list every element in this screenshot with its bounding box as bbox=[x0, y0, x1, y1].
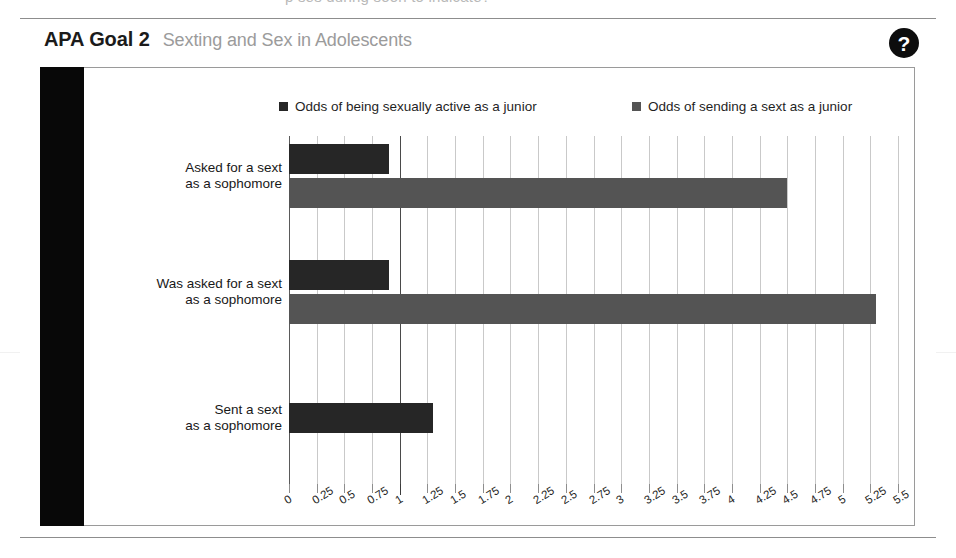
x-tick-mark-20 bbox=[843, 484, 844, 493]
bar-series-0-category-0 bbox=[289, 144, 389, 174]
bar-series-1-category-0 bbox=[289, 178, 787, 208]
x-tick-label-21: 5.25 bbox=[863, 484, 888, 506]
x-tick-label-12: 3 bbox=[614, 493, 626, 507]
page-title: APA Goal 2 Sexting and Sex in Adolescent… bbox=[44, 28, 412, 51]
chart-panel: Odds of being sexually active as a junio… bbox=[84, 67, 915, 526]
x-tick-label-17: 4.25 bbox=[753, 484, 778, 506]
y-axis-label-0: Asked for a sextas a sophomore bbox=[102, 160, 282, 192]
x-tick-mark-0 bbox=[289, 484, 290, 493]
x-axis-ticks: 00.250.50.7511.251.51.7522.252.52.7533.2… bbox=[289, 484, 929, 534]
legend-swatch-0 bbox=[279, 102, 288, 111]
title-main: APA Goal 2 bbox=[44, 28, 150, 51]
bar-series-0-category-2 bbox=[289, 403, 433, 433]
x-tick-label-4: 1 bbox=[393, 493, 405, 507]
legend-swatch-1 bbox=[632, 102, 641, 111]
x-tick-label-22: 5.5 bbox=[891, 488, 911, 507]
x-tick-label-10: 2.5 bbox=[559, 488, 579, 507]
y-axis-label-line: Sent a sext bbox=[102, 402, 282, 418]
y-axis-label-line: as a sophomore bbox=[102, 292, 282, 308]
legend-item-0: Odds of being sexually active as a junio… bbox=[279, 99, 537, 114]
gridline-5.5 bbox=[898, 136, 899, 484]
x-tick-label-14: 3.5 bbox=[670, 488, 690, 507]
y-axis-labels: Asked for a sextas a sophomoreWas asked … bbox=[102, 136, 282, 484]
x-tick-label-7: 1.75 bbox=[476, 484, 501, 506]
bar-series-0-category-1 bbox=[289, 260, 389, 290]
x-tick-label-18: 4.5 bbox=[780, 488, 800, 507]
card-body: Odds of being sexually active as a junio… bbox=[20, 66, 936, 539]
x-tick-label-2: 0.5 bbox=[337, 488, 357, 507]
chart-legend: Odds of being sexually active as a junio… bbox=[279, 99, 899, 119]
x-tick-label-5: 1.25 bbox=[420, 484, 445, 506]
x-tick-label-0: 0 bbox=[282, 493, 294, 507]
y-axis-label-1: Was asked for a sextas a sophomore bbox=[102, 276, 282, 308]
plot-area bbox=[289, 136, 898, 484]
legend-item-1: Odds of sending a sext as a junior bbox=[632, 99, 852, 114]
legend-label-1: Odds of sending a sext as a junior bbox=[648, 99, 852, 114]
x-tick-mark-12 bbox=[621, 484, 622, 493]
x-tick-mark-4 bbox=[400, 484, 402, 495]
y-axis-label-line: as a sophomore bbox=[102, 176, 282, 192]
y-axis-label-2: Sent a sextas a sophomore bbox=[102, 402, 282, 434]
x-tick-mark-8 bbox=[510, 484, 511, 493]
legend-label-0: Odds of being sexually active as a junio… bbox=[295, 99, 537, 114]
x-tick-label-16: 4 bbox=[725, 493, 737, 507]
cut-off-text-above: p ses during soon to indicate? bbox=[0, 0, 956, 16]
x-tick-label-13: 3.25 bbox=[642, 484, 667, 506]
y-axis-label-line: Asked for a sext bbox=[102, 160, 282, 176]
card-header: APA Goal 2 Sexting and Sex in Adolescent… bbox=[20, 19, 936, 66]
x-tick-label-11: 2.75 bbox=[587, 484, 612, 506]
x-tick-label-15: 3.75 bbox=[697, 484, 722, 506]
bar-series-1-category-1 bbox=[289, 294, 876, 324]
x-tick-label-8: 2 bbox=[503, 493, 515, 507]
x-tick-label-1: 0.25 bbox=[310, 484, 335, 506]
title-subtitle: Sexting and Sex in Adolescents bbox=[163, 30, 412, 51]
sidebar-black-strip bbox=[40, 67, 84, 526]
question-mark-icon[interactable]: ? bbox=[889, 28, 919, 58]
x-tick-label-3: 0.75 bbox=[365, 484, 390, 506]
y-axis-label-line: Was asked for a sext bbox=[102, 276, 282, 292]
x-tick-label-6: 1.5 bbox=[448, 488, 468, 507]
x-tick-label-19: 4.75 bbox=[808, 484, 833, 506]
x-tick-label-9: 2.25 bbox=[531, 484, 556, 506]
x-tick-mark-16 bbox=[732, 484, 733, 493]
x-tick-label-20: 5 bbox=[836, 493, 848, 507]
apa-goal-card: APA Goal 2 Sexting and Sex in Adolescent… bbox=[20, 18, 936, 538]
y-axis-label-line: as a sophomore bbox=[102, 418, 282, 434]
cut-off-text: p ses during soon to indicate? bbox=[285, 0, 490, 5]
